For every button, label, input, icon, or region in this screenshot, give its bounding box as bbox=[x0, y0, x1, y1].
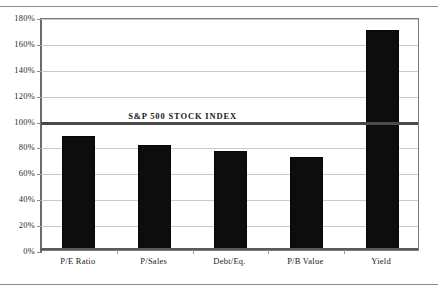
y-axis-tick-mark bbox=[37, 252, 41, 253]
x-axis-label-p-sales: P/Sales bbox=[140, 256, 167, 266]
y-axis-tick-label: 0% bbox=[23, 246, 35, 256]
y-axis-tick-label: 40% bbox=[19, 194, 35, 204]
y-axis-tick-mark bbox=[37, 19, 41, 20]
x-axis-label-p-b-value: P/B Value bbox=[287, 256, 323, 266]
y-axis-tick-mark bbox=[37, 71, 41, 72]
x-axis-tick-mark bbox=[268, 250, 269, 254]
benchmark-line bbox=[41, 122, 418, 125]
y-axis-tick-label: 20% bbox=[19, 220, 35, 230]
y-axis-tick-mark bbox=[37, 174, 41, 175]
bar-yield bbox=[366, 30, 399, 249]
plot-area: S&P 500 STOCK INDEX bbox=[40, 18, 419, 251]
bar-p-e-ratio bbox=[62, 136, 95, 249]
x-axis-label-yield: Yield bbox=[371, 256, 391, 266]
figure-top-rule bbox=[0, 6, 438, 7]
bar-p-b-value bbox=[290, 157, 323, 249]
y-axis-tick-mark bbox=[37, 45, 41, 46]
x-axis-label-debt-eq: Debt/Eq. bbox=[213, 256, 245, 266]
gridline bbox=[41, 71, 418, 72]
x-axis-tick-mark bbox=[344, 250, 345, 254]
bar-debt-eq bbox=[214, 151, 247, 249]
gridline bbox=[41, 97, 418, 98]
chart-figure: S&P 500 STOCK INDEX 0%20%40%60%80%100%12… bbox=[0, 0, 438, 291]
x-axis-line bbox=[41, 248, 418, 250]
gridline bbox=[41, 45, 418, 46]
benchmark-label: S&P 500 STOCK INDEX bbox=[128, 111, 237, 122]
y-axis-tick-label: 140% bbox=[14, 65, 35, 75]
y-axis-tick-label: 60% bbox=[19, 168, 35, 178]
x-axis-tick-mark bbox=[117, 250, 118, 254]
y-axis-tick-label: 100% bbox=[14, 117, 35, 127]
y-axis-tick-mark bbox=[37, 200, 41, 201]
y-axis-tick-label: 160% bbox=[14, 39, 35, 49]
y-axis-tick-mark bbox=[37, 97, 41, 98]
y-axis-tick-label: 80% bbox=[19, 142, 35, 152]
gridline bbox=[41, 19, 418, 20]
x-axis-label-p-e-ratio: P/E Ratio bbox=[60, 256, 95, 266]
x-axis-tick-mark bbox=[193, 250, 194, 254]
bar-p-sales bbox=[138, 145, 171, 249]
y-axis-tick-label: 120% bbox=[14, 91, 35, 101]
gridline bbox=[41, 148, 418, 149]
y-axis-tick-label: 180% bbox=[14, 13, 35, 23]
figure-bottom-rule bbox=[0, 284, 438, 285]
y-axis-tick-mark bbox=[37, 148, 41, 149]
y-axis-tick-mark bbox=[37, 226, 41, 227]
